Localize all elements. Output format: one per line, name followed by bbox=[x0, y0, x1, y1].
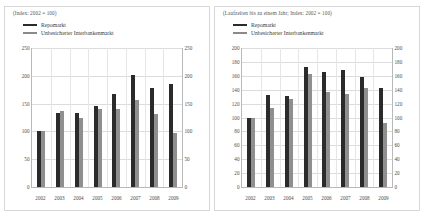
x-axis-tick-label: 2009 bbox=[164, 195, 183, 201]
y-axis-tick-label: 200 bbox=[185, 73, 193, 79]
bar-group bbox=[379, 48, 387, 187]
y-axis-tick-label: 100 bbox=[22, 128, 30, 134]
x-axis-tick-label: 2002 bbox=[31, 195, 50, 201]
y-axis-tick-label: 60 bbox=[234, 142, 239, 148]
legend-swatch-repomarkt-icon bbox=[23, 24, 37, 27]
y-axis-tick-label: 0 bbox=[237, 184, 240, 190]
chart-title-right: (Laufzeiten bis zu einem Jahr; Index: 20… bbox=[223, 10, 332, 16]
legend-label-repomarkt: Repomarkt bbox=[251, 22, 276, 28]
y-axis-tick-label: 250 bbox=[185, 45, 193, 51]
y-axis-tick-label: 150 bbox=[185, 101, 193, 107]
chart-panel-left: (Index: 2002 = 100) Repomarkt Unbesicher… bbox=[4, 6, 210, 211]
bar-group bbox=[341, 48, 349, 187]
bar-group bbox=[304, 48, 312, 187]
bar bbox=[364, 88, 368, 187]
x-axis-tick-label: 2003 bbox=[50, 195, 69, 201]
y-axis-tick-label: 20 bbox=[234, 170, 239, 176]
bar-group bbox=[247, 48, 255, 187]
y-axis-tick-label: 100 bbox=[395, 115, 403, 121]
y-axis-tick-label: 180 bbox=[232, 59, 240, 65]
y-axis-tick-label: 200 bbox=[22, 73, 30, 79]
y-axis-tick-label: 160 bbox=[232, 73, 240, 79]
y-axis-tick-label: 120 bbox=[232, 101, 240, 107]
y-axis-tick-label: 150 bbox=[22, 101, 30, 107]
legend-swatch-unbesicherter-icon bbox=[233, 32, 247, 35]
bar bbox=[326, 92, 330, 187]
x-axis-tick-label: 2005 bbox=[88, 195, 107, 201]
y-axis-tick-label: 0 bbox=[27, 184, 30, 190]
bar-group bbox=[131, 48, 139, 187]
bar-group bbox=[56, 48, 64, 187]
y-axis-tick-label: 180 bbox=[395, 59, 403, 65]
x-axis-tick-label: 2007 bbox=[126, 195, 145, 201]
x-axis-tick-label: 2007 bbox=[336, 195, 355, 201]
y-axis-tick-label: 50 bbox=[24, 156, 29, 162]
legend-item-repomarkt: Repomarkt bbox=[23, 21, 114, 29]
x-axis-labels-left: 20022003200420052006200720082009 bbox=[31, 195, 183, 201]
two-panel-bar-chart-figure: (Index: 2002 = 100) Repomarkt Unbesicher… bbox=[0, 0, 424, 221]
x-axis-tick-label: 2004 bbox=[279, 195, 298, 201]
legend-swatch-unbesicherter-icon bbox=[23, 32, 37, 35]
legend-label-repomarkt: Repomarkt bbox=[41, 22, 66, 28]
y-axis-tick-label: 0 bbox=[185, 184, 188, 190]
bar bbox=[345, 94, 349, 187]
x-axis-tick-label: 2002 bbox=[241, 195, 260, 201]
y-axis-tick-label: 120 bbox=[395, 101, 403, 107]
bar-group bbox=[112, 48, 120, 187]
y-axis-tick-label: 80 bbox=[234, 128, 239, 134]
bar-group bbox=[322, 48, 330, 187]
y-axis-tick-label: 60 bbox=[395, 142, 400, 148]
bar-group bbox=[37, 48, 45, 187]
legend-item-unbesicherter-interbankenmarkt: Unbesicherter Interbankenmarkt bbox=[233, 29, 324, 37]
legend-item-unbesicherter-interbankenmarkt: Unbesicherter Interbankenmarkt bbox=[23, 29, 114, 37]
y-axis-tick-label: 250 bbox=[22, 45, 30, 51]
x-axis-tick-label: 2005 bbox=[298, 195, 317, 201]
legend-left: Repomarkt Unbesicherter Interbankenmarkt bbox=[23, 21, 114, 37]
bar-group bbox=[150, 48, 158, 187]
y-axis-tick-label: 160 bbox=[395, 73, 403, 79]
y-axis-tick-label: 100 bbox=[185, 128, 193, 134]
bar-groups-left bbox=[32, 48, 182, 187]
legend-label-unbesicherter: Unbesicherter Interbankenmarkt bbox=[251, 30, 324, 36]
y-axis-tick-label: 40 bbox=[234, 156, 239, 162]
legend-swatch-repomarkt-icon bbox=[233, 24, 247, 27]
bar bbox=[98, 109, 102, 187]
legend-right: Repomarkt Unbesicherter Interbankenmarkt bbox=[233, 21, 324, 37]
y-axis-tick-label: 0 bbox=[395, 184, 398, 190]
legend-item-repomarkt: Repomarkt bbox=[233, 21, 324, 29]
bar-group bbox=[169, 48, 177, 187]
y-axis-tick-label: 40 bbox=[395, 156, 400, 162]
x-axis-tick-label: 2008 bbox=[355, 195, 374, 201]
bar-group bbox=[75, 48, 83, 187]
y-axis-tick-label: 20 bbox=[395, 170, 400, 176]
plot-area-right: 0020204040606080801001001201201401401601… bbox=[241, 48, 393, 188]
x-axis-tick-label: 2004 bbox=[69, 195, 88, 201]
y-axis-tick-label: 140 bbox=[232, 87, 240, 93]
bar bbox=[116, 109, 120, 187]
x-axis-tick-label: 2008 bbox=[145, 195, 164, 201]
bar bbox=[251, 118, 255, 188]
bar bbox=[270, 108, 274, 187]
y-axis-tick-label: 50 bbox=[185, 156, 190, 162]
bar-group bbox=[285, 48, 293, 187]
bar bbox=[41, 131, 45, 187]
x-axis-tick-label: 2009 bbox=[374, 195, 393, 201]
bar bbox=[173, 133, 177, 187]
bar bbox=[79, 118, 83, 188]
legend-label-unbesicherter: Unbesicherter Interbankenmarkt bbox=[41, 30, 114, 36]
bar bbox=[383, 123, 387, 187]
chart-panel-right: (Laufzeiten bis zu einem Jahr; Index: 20… bbox=[214, 6, 420, 211]
x-axis-tick-label: 2006 bbox=[317, 195, 336, 201]
bar bbox=[154, 114, 158, 187]
bar bbox=[308, 74, 312, 187]
y-axis-tick-label: 100 bbox=[232, 115, 240, 121]
x-axis-labels-right: 20022003200420052006200720082009 bbox=[241, 195, 393, 201]
plot-area-left: 005050100100150150200200250250 bbox=[31, 48, 183, 188]
bar bbox=[135, 100, 139, 187]
x-axis-tick-label: 2006 bbox=[107, 195, 126, 201]
bar bbox=[60, 111, 64, 187]
bar-group bbox=[360, 48, 368, 187]
chart-title-left: (Index: 2002 = 100) bbox=[13, 10, 57, 16]
y-axis-tick-label: 140 bbox=[395, 87, 403, 93]
x-axis-tick-label: 2003 bbox=[260, 195, 279, 201]
